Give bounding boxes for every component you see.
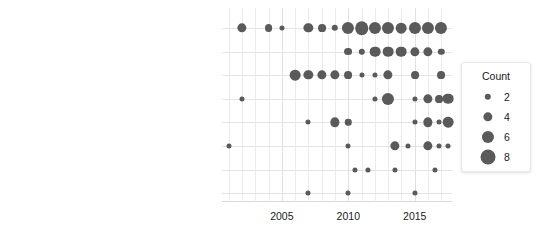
data-point — [330, 118, 339, 127]
legend-item-6: 6 — [462, 127, 530, 147]
x-gridline-major — [282, 8, 283, 202]
data-point — [352, 167, 357, 172]
legend-label: 8 — [504, 151, 510, 163]
data-point — [346, 191, 351, 196]
data-point — [345, 119, 351, 125]
data-point — [423, 118, 432, 127]
data-point — [409, 22, 421, 34]
data-point — [366, 167, 371, 172]
y-gridline — [222, 170, 452, 171]
y-gridline — [222, 193, 452, 194]
data-point — [358, 48, 364, 54]
data-point — [330, 71, 339, 80]
data-point — [443, 117, 454, 128]
data-point — [265, 24, 273, 32]
data-point — [412, 191, 417, 196]
data-point — [306, 120, 311, 125]
x-gridline — [428, 8, 429, 202]
y-axis-category-labels: Medical imagingSafe City or Smart CityE-… — [0, 0, 222, 243]
data-point — [382, 22, 394, 34]
x-gridline-major — [415, 8, 416, 202]
legend-swatch-icon — [481, 150, 496, 165]
x-gridline — [255, 8, 256, 202]
x-gridline — [295, 8, 296, 202]
dot-plot-chart: Medical imagingSafe City or Smart CityE-… — [0, 0, 540, 243]
x-gridline — [269, 8, 270, 202]
legend-swatch-icon — [485, 94, 491, 100]
data-point — [306, 191, 311, 196]
x-gridline — [362, 8, 363, 202]
data-point — [317, 71, 326, 80]
data-point — [342, 22, 354, 34]
data-point — [412, 96, 417, 101]
data-point — [382, 93, 394, 105]
data-point — [392, 167, 397, 172]
data-point — [396, 23, 407, 34]
x-tick-label-2005: 2005 — [270, 210, 293, 222]
data-point — [423, 47, 432, 56]
data-point — [332, 25, 338, 31]
data-point — [239, 96, 244, 101]
data-point — [412, 120, 417, 125]
plot-area — [222, 8, 452, 202]
data-point — [304, 71, 313, 80]
legend-swatch-icon — [483, 112, 492, 121]
data-point — [226, 143, 231, 148]
data-point — [372, 96, 377, 101]
x-gridline — [242, 8, 243, 202]
x-gridline — [388, 8, 389, 202]
x-gridline — [308, 8, 309, 202]
data-point — [369, 22, 381, 34]
data-point — [237, 23, 246, 32]
data-point — [445, 143, 450, 148]
data-point — [437, 71, 445, 79]
data-point — [422, 22, 434, 34]
size-legend: Count 2468 — [461, 62, 531, 172]
legend-item-2: 2 — [462, 87, 530, 107]
legend-item-8: 8 — [462, 147, 530, 167]
x-axis-line — [222, 201, 452, 202]
data-point — [344, 48, 352, 56]
legend-label: 6 — [504, 131, 510, 143]
x-gridline — [335, 8, 336, 202]
legend-item-4: 4 — [462, 107, 530, 127]
legend-swatch-icon — [482, 131, 494, 143]
data-point — [384, 71, 393, 80]
data-point — [438, 48, 444, 54]
legend-title: Count — [462, 70, 530, 82]
data-point — [432, 167, 437, 172]
y-gridline — [222, 99, 452, 100]
legend-label: 4 — [504, 111, 510, 123]
x-gridline — [401, 8, 402, 202]
data-point — [304, 23, 313, 32]
data-point — [411, 71, 419, 79]
x-gridline — [441, 8, 442, 202]
data-point — [372, 73, 377, 78]
data-point — [396, 46, 407, 57]
data-point — [435, 22, 447, 34]
data-point — [346, 143, 351, 148]
data-point — [355, 21, 369, 35]
x-gridline-major — [348, 8, 349, 202]
x-gridline — [322, 8, 323, 202]
data-point — [290, 70, 301, 81]
data-point — [383, 46, 394, 57]
x-tick-label-2010: 2010 — [337, 210, 360, 222]
x-gridline — [375, 8, 376, 202]
y-gridline — [222, 146, 452, 147]
data-point — [279, 25, 284, 30]
x-gridline — [229, 8, 230, 202]
data-point — [443, 93, 454, 104]
data-point — [344, 71, 352, 79]
x-tick-label-2015: 2015 — [403, 210, 426, 222]
data-point — [423, 94, 432, 103]
data-point — [390, 141, 399, 150]
data-point — [436, 143, 441, 148]
data-point — [423, 141, 432, 150]
data-point — [406, 143, 411, 148]
data-point — [435, 95, 443, 103]
data-point — [359, 73, 364, 78]
data-point — [436, 120, 441, 125]
data-point — [318, 24, 326, 32]
data-point — [410, 47, 419, 56]
